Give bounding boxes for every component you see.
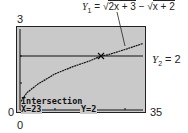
y-readout: Y=2 bbox=[80, 105, 97, 114]
y1-curve bbox=[21, 44, 143, 102]
x-readout: X=23 bbox=[21, 105, 42, 114]
y1-pointer-line bbox=[117, 12, 125, 46]
